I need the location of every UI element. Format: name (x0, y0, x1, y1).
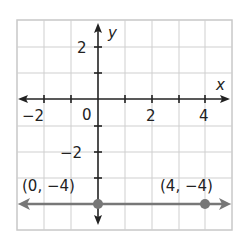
x-tick-neg2: −2 (22, 107, 44, 125)
y-axis-label: y (107, 24, 118, 42)
y-tick-neg2: −2 (60, 144, 82, 162)
point-label-4-neg4: (4, −4) (160, 177, 213, 195)
point-4-neg4 (200, 199, 210, 209)
point-0-neg4 (93, 199, 103, 209)
point-label-0-neg4: (0, −4) (22, 177, 75, 195)
x-tick-2: 2 (146, 107, 156, 125)
origin-label: 0 (82, 106, 92, 124)
y-axis (94, 23, 102, 225)
x-axis-label: x (215, 76, 225, 94)
x-axis (18, 95, 230, 103)
y-tick-2: 2 (77, 39, 87, 57)
x-tick-4: 4 (199, 107, 209, 125)
grid (17, 20, 232, 230)
coordinate-plane: y x 2 −2 −2 0 2 4 (0, −4) (4, −4) (0, 0, 242, 236)
